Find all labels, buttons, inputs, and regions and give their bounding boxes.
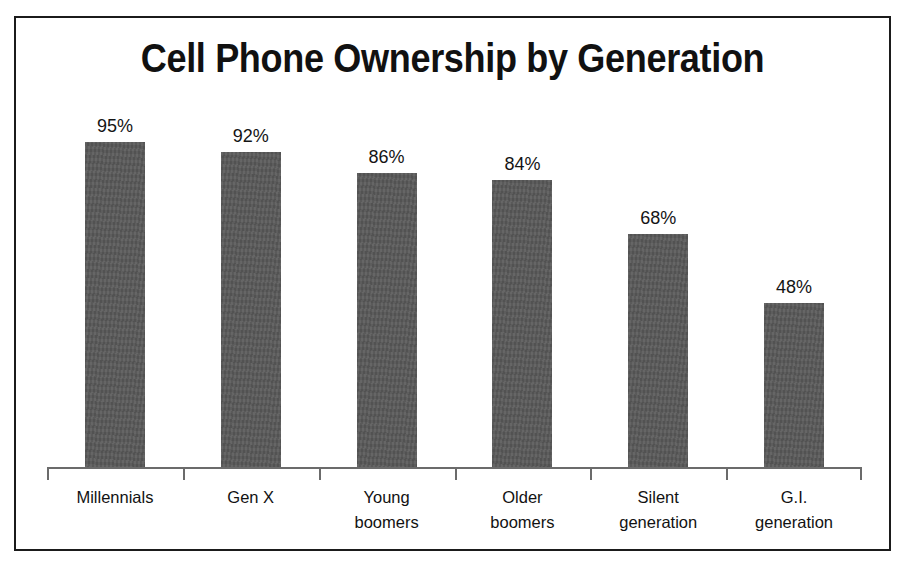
bar-value-label: 92%	[233, 126, 269, 146]
bar-column[interactable]: 84%	[492, 78, 552, 467]
x-axis-label: Youngboomers	[319, 485, 455, 535]
bar-column[interactable]: 95%	[85, 78, 145, 467]
bar-column[interactable]: 48%	[764, 78, 824, 467]
bar-slot: 68%	[590, 78, 726, 467]
bar-column[interactable]: 68%	[628, 78, 688, 467]
bar-rect[interactable]	[764, 303, 824, 467]
x-axis-label-line: boomers	[454, 510, 590, 535]
x-axis-label: Olderboomers	[454, 485, 590, 535]
bar-slot: 95%	[47, 78, 183, 467]
x-axis-tick	[455, 467, 457, 480]
x-axis-tick	[590, 467, 592, 480]
bar-value-label: 84%	[504, 154, 540, 174]
bar-column[interactable]: 92%	[221, 78, 281, 467]
x-axis-label-line: boomers	[319, 510, 455, 535]
x-axis-label-line: Older	[454, 485, 590, 510]
bar-rect[interactable]	[221, 152, 281, 467]
bar-slot: 84%	[455, 78, 591, 467]
bar-rect[interactable]	[357, 173, 417, 467]
bar-value-label: 95%	[97, 116, 133, 136]
bar-slot: 86%	[319, 78, 455, 467]
x-axis-label-line: generation	[590, 510, 726, 535]
x-axis-label: Gen X	[183, 485, 319, 535]
bar-rect[interactable]	[492, 180, 552, 467]
x-axis-label-line: G.I.	[726, 485, 862, 510]
bar-value-label: 68%	[640, 208, 676, 228]
x-axis-tick	[860, 467, 862, 480]
bar-value-label: 48%	[776, 277, 812, 297]
chart-frame: Cell Phone Ownership by Generation 95%92…	[14, 16, 891, 551]
bar-slot: 92%	[183, 78, 319, 467]
x-axis-label: Silentgeneration	[590, 485, 726, 535]
bar-rect[interactable]	[628, 234, 688, 467]
x-axis-label-line: Silent	[590, 485, 726, 510]
x-axis-category-labels: MillennialsGen XYoungboomersOlderboomers…	[47, 485, 862, 535]
x-axis-label-line: Young	[319, 485, 455, 510]
x-axis-tick	[319, 467, 321, 480]
x-axis-label: Millennials	[47, 485, 183, 535]
plot-area: 95%92%86%84%68%48%	[47, 78, 862, 467]
x-axis-tick	[47, 467, 49, 480]
x-axis-label-line: Millennials	[47, 485, 183, 510]
bar-rect[interactable]	[85, 142, 145, 467]
x-axis-label: G.I.generation	[726, 485, 862, 535]
bar-column[interactable]: 86%	[357, 78, 417, 467]
bar-value-label: 86%	[369, 147, 405, 167]
x-axis-tick	[183, 467, 185, 480]
x-axis-label-line: generation	[726, 510, 862, 535]
bar-slot: 48%	[726, 78, 862, 467]
x-axis-label-line: Gen X	[183, 485, 319, 510]
x-axis-tick	[726, 467, 728, 480]
chart-title: Cell Phone Ownership by Generation	[68, 34, 836, 82]
